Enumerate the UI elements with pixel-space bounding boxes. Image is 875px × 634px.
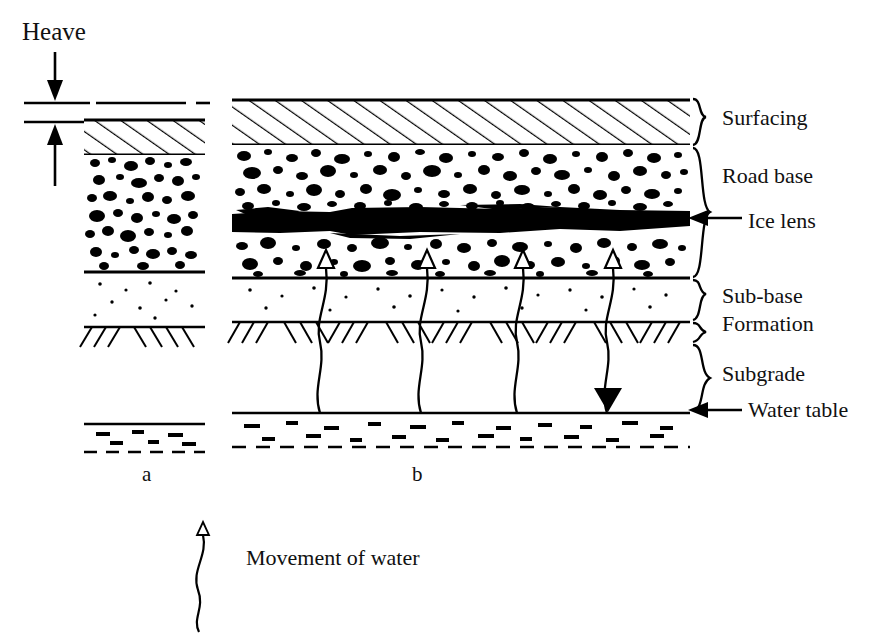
heave-indicator	[24, 52, 90, 186]
layer-b-road-base	[232, 145, 690, 278]
water-table-arrow	[688, 402, 708, 418]
ice-lens-arrow	[688, 210, 708, 226]
heave-label: Heave	[22, 18, 86, 46]
layer-b-sub-base	[248, 286, 668, 312]
legend-label: Movement of water	[246, 545, 420, 571]
brace-subgrade	[693, 345, 710, 411]
layer-a-sub-base	[93, 281, 193, 319]
figure-canvas: Heave Surfacing Road base Ice lens Sub-b…	[0, 0, 875, 634]
caption-a: a	[142, 462, 151, 487]
layer-a-water-table	[84, 424, 205, 452]
layer-a-surfacing	[84, 120, 205, 155]
layer-b-water-table	[232, 388, 690, 447]
column-b	[228, 100, 690, 447]
caption-b: b	[412, 462, 423, 487]
layer-a-road-base	[84, 155, 205, 272]
brace-sub-base	[693, 280, 706, 320]
brace-formation	[693, 323, 706, 342]
layer-b-surfacing	[232, 100, 690, 145]
label-sub-base: Sub-base	[722, 283, 803, 309]
label-surfacing: Surfacing	[722, 105, 808, 131]
label-road-base: Road base	[722, 163, 813, 189]
column-a	[80, 103, 210, 452]
layer-a-formation	[80, 327, 205, 347]
layer-b-formation	[228, 322, 690, 343]
brace-surfacing	[693, 99, 706, 145]
label-formation: Formation	[722, 311, 814, 337]
label-subgrade: Subgrade	[722, 361, 805, 387]
label-water-table: Water table	[748, 397, 848, 423]
annotation-braces	[693, 99, 710, 411]
water-table-symbol	[594, 388, 622, 412]
label-ice-lens: Ice lens	[748, 208, 816, 234]
legend-symbol	[196, 522, 209, 632]
